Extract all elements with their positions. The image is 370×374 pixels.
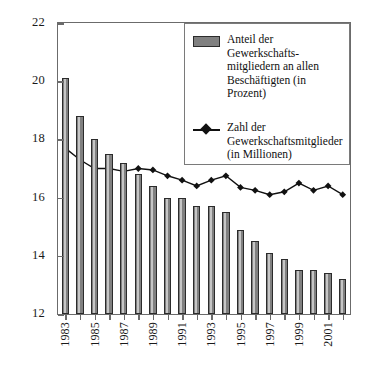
legend-entry-bar: Anteil der Gewerkschafts- mitgliedern an… [193,33,341,101]
y-axis-label-22: 22 [19,15,45,30]
legend-line-line-3: (in Millionen) [227,148,292,160]
bar-1985 [91,139,98,314]
bar-1989 [149,186,156,314]
x-axis-label-1999: 1999 [292,322,307,347]
bar-1997 [266,253,273,314]
line-marker-1988 [135,165,142,172]
plot-area: Anteil der Gewerkschafts- mitgliedern an… [57,22,351,315]
line-marker-1992 [193,183,200,190]
x-axis-label-1991: 1991 [175,322,190,347]
y-axis-label-18: 18 [19,131,45,146]
line-marker-swatch-icon [193,124,220,135]
legend-entry-bar-label: Anteil der Gewerkschafts- mitgliedern an… [227,33,341,101]
line-marker-1991 [179,177,186,184]
bar-1987 [120,163,127,314]
chart-figure: 121416182022 Anteil der Gewerkschafts- m… [0,0,370,374]
bar-1984 [76,116,83,314]
line-marker-1996 [252,187,259,194]
line-marker-1998 [281,188,288,195]
y-axis-tick-12 [58,314,64,316]
y-axis-label-16: 16 [19,189,45,204]
legend-line-line-1: Zahl der [227,121,266,133]
x-axis-label-1987: 1987 [117,322,132,347]
line-marker-1989 [150,167,157,174]
bar-1993 [208,206,215,314]
x-axis-label-1983: 1983 [58,322,73,347]
y-axis-tick-14 [58,256,64,258]
legend-entry-line: Zahl der Gewerkschaftsmitglieder (in Mil… [193,121,341,162]
bar-swatch-icon [193,36,220,47]
bar-1991 [178,198,185,314]
line-marker-1993 [208,177,215,184]
line-marker-1997 [266,191,273,198]
legend-line-line-2: Gewerkschaftsmitglieder [227,135,343,147]
y-axis-tick-20 [58,81,64,83]
bar-2002 [339,279,346,314]
bar-1988 [135,174,142,314]
x-axis-label-1993: 1993 [204,322,219,347]
x-axis-label-1985: 1985 [88,322,103,347]
y-axis-label-14: 14 [19,247,45,262]
y-axis: 121416182022 [22,22,53,313]
line-marker-2001 [325,183,332,190]
bar-1983 [62,78,69,314]
bar-1996 [251,241,258,314]
chart-legend: Anteil der Gewerkschafts- mitgliedern an… [184,23,350,165]
bar-1986 [105,154,112,314]
y-axis-tick-22 [58,23,64,25]
x-axis-label-1995: 1995 [234,322,249,347]
bar-2000 [310,270,317,314]
x-axis-label-2001: 2001 [321,322,336,347]
y-axis-tick-18 [58,139,64,141]
x-axis-label-1989: 1989 [146,322,161,347]
legend-bar-line-2: mitgliedern an allen [227,60,319,72]
x-axis: 1983198519871989199119931995199719992001 [57,318,351,374]
line-marker-2002 [339,191,346,198]
bar-1998 [281,259,288,314]
y-axis-label-20: 20 [19,73,45,88]
legend-bar-line-3: Beschäftigten (in Prozent) [227,74,306,100]
bar-1992 [193,206,200,314]
line-marker-1990 [164,172,171,179]
legend-entry-line-label: Zahl der Gewerkschaftsmitglieder (in Mil… [227,121,343,162]
line-marker-1999 [296,180,303,187]
bar-1995 [237,230,244,314]
bar-2001 [324,273,331,314]
x-axis-label-1997: 1997 [263,322,278,347]
bar-1994 [222,212,229,314]
legend-bar-line-1: Anteil der Gewerkschafts- [227,33,299,59]
y-axis-tick-16 [58,198,64,200]
bar-1999 [295,270,302,314]
y-axis-label-12: 12 [19,306,45,321]
bar-1990 [164,198,171,314]
line-marker-2000 [310,187,317,194]
